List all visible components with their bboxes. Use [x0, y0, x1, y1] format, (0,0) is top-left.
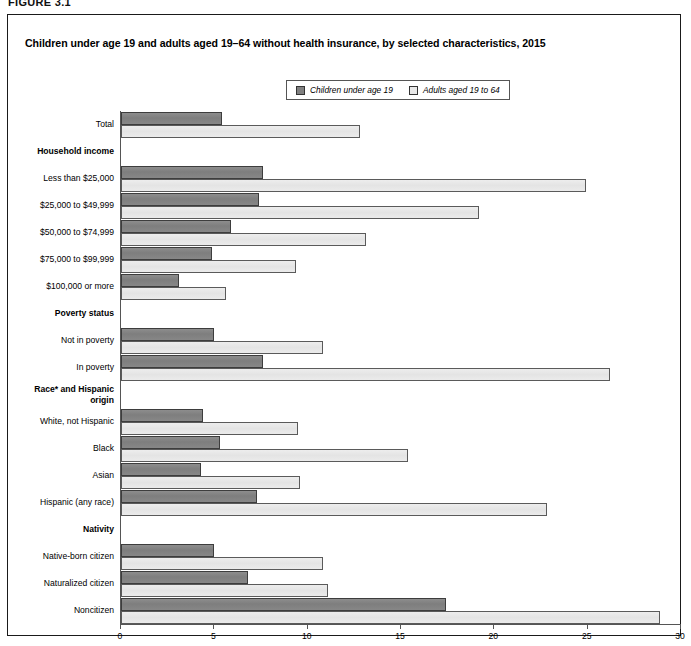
chart-row: Nativity	[120, 516, 680, 543]
row-label: Naturalized citizen	[44, 578, 114, 589]
row-label: Not in poverty	[61, 335, 114, 346]
chart-row: Race* and Hispanic origin	[120, 381, 680, 408]
x-tick	[307, 624, 308, 629]
chart-row: Asian	[120, 462, 680, 489]
chart-row: Black	[120, 435, 680, 462]
x-tick	[213, 624, 214, 629]
x-tick-label: 10	[302, 631, 312, 641]
row-label: $75,000 to $99,999	[40, 254, 114, 265]
bar-children-under-19	[121, 112, 222, 125]
chart-row: $100,000 or more	[120, 273, 680, 300]
bar-children-under-19	[121, 355, 263, 368]
legend-item-children[interactable]: Children under age 19	[296, 85, 393, 95]
figure-root: FIGURE 3.1 Children under age 19 and adu…	[0, 0, 691, 646]
bar-adults-19-to-64	[121, 125, 360, 138]
x-tick-label: 15	[395, 631, 405, 641]
bar-adults-19-to-64	[121, 584, 328, 597]
chart-row: Hispanic (any race)	[120, 489, 680, 516]
x-tick-label: 30	[675, 631, 685, 641]
bar-adults-19-to-64	[121, 233, 366, 246]
bar-children-under-19	[121, 220, 231, 233]
row-label: Household income	[37, 146, 114, 157]
bar-children-under-19	[121, 274, 179, 287]
bar-children-under-19	[121, 463, 201, 476]
row-label: Hispanic (any race)	[40, 497, 114, 508]
figure-label: FIGURE 3.1	[8, 0, 71, 8]
bar-children-under-19	[121, 247, 212, 260]
bar-adults-19-to-64	[121, 368, 610, 381]
row-label: Less than $25,000	[43, 173, 114, 184]
x-tick-label: 0	[118, 631, 123, 641]
x-tick-label: 20	[489, 631, 499, 641]
row-label: $25,000 to $49,999	[40, 200, 114, 211]
bar-children-under-19	[121, 544, 214, 557]
chart-row: Not in poverty	[120, 327, 680, 354]
bar-adults-19-to-64	[121, 422, 298, 435]
chart-row: White, not Hispanic	[120, 408, 680, 435]
row-label: Black	[93, 443, 114, 454]
bar-adults-19-to-64	[121, 476, 300, 489]
row-label: $100,000 or more	[46, 281, 114, 292]
row-label: White, not Hispanic	[40, 416, 114, 427]
bar-children-under-19	[121, 571, 248, 584]
chart-row: Household income	[120, 138, 680, 165]
bar-children-under-19	[121, 436, 220, 449]
legend-label-adults: Adults aged 19 to 64	[423, 85, 500, 95]
bar-children-under-19	[121, 409, 203, 422]
chart-legend: Children under age 19 Adults aged 19 to …	[286, 80, 510, 100]
row-label: Native-born citizen	[43, 551, 114, 562]
dark-gray-swatch	[296, 86, 305, 95]
chart-row: Poverty status	[120, 300, 680, 327]
bar-adults-19-to-64	[121, 557, 323, 570]
x-tick	[493, 624, 494, 629]
bar-adults-19-to-64	[121, 179, 586, 192]
chart-row: In poverty	[120, 354, 680, 381]
bar-adults-19-to-64	[121, 260, 296, 273]
x-tick-label: 5	[211, 631, 216, 641]
row-label: $50,000 to $74,999	[40, 227, 114, 238]
chart-row: Noncitizen	[120, 597, 680, 624]
row-label: Poverty status	[55, 308, 114, 319]
chart-row: $75,000 to $99,999	[120, 246, 680, 273]
bar-adults-19-to-64	[121, 341, 323, 354]
row-label: Nativity	[83, 524, 114, 535]
chart-row: $50,000 to $74,999	[120, 219, 680, 246]
bar-adults-19-to-64	[121, 503, 547, 516]
row-label: Total	[96, 119, 114, 130]
bar-adults-19-to-64	[121, 449, 408, 462]
bar-children-under-19	[121, 193, 259, 206]
bar-children-under-19	[121, 328, 214, 341]
chart-row: Total	[120, 111, 680, 138]
x-tick	[680, 624, 681, 629]
x-tick-label: 25	[582, 631, 592, 641]
bar-adults-19-to-64	[121, 611, 660, 624]
chart-title: Children under age 19 and adults aged 19…	[25, 37, 665, 49]
plot-area: Percent 051015202530TotalHousehold incom…	[120, 111, 680, 624]
chart-row: $25,000 to $49,999	[120, 192, 680, 219]
x-tick	[120, 624, 121, 629]
bar-children-under-19	[121, 490, 257, 503]
x-tick	[400, 624, 401, 629]
x-tick	[587, 624, 588, 629]
legend-item-adults[interactable]: Adults aged 19 to 64	[409, 85, 500, 95]
bar-children-under-19	[121, 598, 446, 611]
figure-panel: Children under age 19 and adults aged 19…	[7, 14, 681, 636]
bar-children-under-19	[121, 166, 263, 179]
chart-row: Less than $25,000	[120, 165, 680, 192]
chart-row: Naturalized citizen	[120, 570, 680, 597]
chart-row: Native-born citizen	[120, 543, 680, 570]
row-label: Noncitizen	[74, 605, 114, 616]
row-label: Race* and Hispanic origin	[8, 384, 114, 405]
legend-label-children: Children under age 19	[310, 85, 393, 95]
row-label: In poverty	[76, 362, 114, 373]
light-gray-swatch	[409, 86, 418, 95]
row-label: Asian	[93, 470, 115, 481]
bar-adults-19-to-64	[121, 206, 479, 219]
bar-adults-19-to-64	[121, 287, 226, 300]
